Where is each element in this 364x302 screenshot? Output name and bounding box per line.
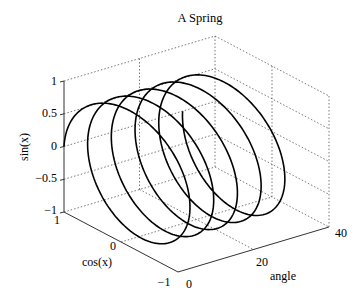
z-tick-0.5: 0.5	[42, 106, 57, 120]
spring-3d-plot: A Spring 1 0.5 0 −0.5 −1 sin(x) 1 0 −1 c…	[0, 0, 364, 302]
z-tick-0: 0	[51, 139, 57, 153]
x-tick-neg1: −1	[158, 275, 171, 289]
x-tick-0: 0	[110, 239, 116, 253]
z-tick-1: 1	[51, 74, 57, 88]
axes	[60, 81, 329, 272]
y-tick-0: 0	[186, 277, 192, 291]
y-axis-label: angle	[270, 269, 296, 283]
spring-curve	[64, 75, 285, 244]
x-axis-label: cos(x)	[82, 255, 112, 269]
z-tick-neg0.5: −0.5	[35, 171, 57, 185]
y-tick-40: 40	[335, 226, 347, 240]
z-axis-label: sin(x)	[17, 133, 31, 161]
x-tick-1: 1	[54, 213, 60, 227]
chart-title: A Spring	[178, 11, 224, 25]
grid-lines	[64, 36, 329, 250]
y-tick-20: 20	[256, 255, 268, 269]
